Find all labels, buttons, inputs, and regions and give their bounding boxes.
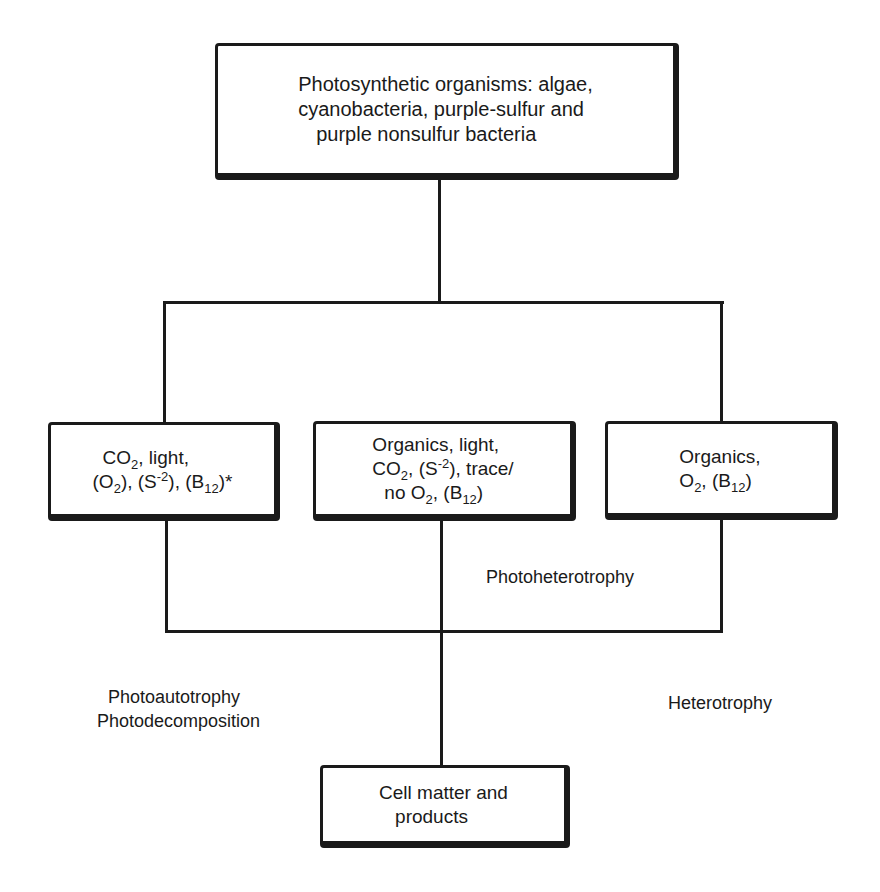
connector-left-down [163, 301, 166, 425]
photosynthetic-organisms-box: Photosynthetic organisms: algae, cyanoba… [215, 43, 679, 180]
photoheterotrophy-inputs-box: Organics, light, CO2, (S-2), trace/ no O… [313, 421, 576, 521]
middle-line-3: no O2, (B12) [372, 481, 513, 505]
output-line-2: products [379, 805, 508, 829]
middle-line-2: CO2, (S-2), trace/ [372, 457, 513, 481]
right-line-2: O2, (B12) [679, 469, 760, 493]
connector-top-horizontal [163, 301, 724, 304]
right-line-1: Organics, [679, 445, 760, 469]
photoheterotrophy-label: Photoheterotrophy [486, 566, 634, 589]
photodecomposition-label: Photodecomposition [97, 710, 260, 733]
connector-middle-vertical [440, 518, 443, 768]
middle-line-1: Organics, light, [372, 433, 513, 457]
photoautotrophy-label: Photoautotrophy [108, 686, 240, 709]
connector-right-down [720, 301, 723, 425]
left-line-1: CO2, light, [93, 446, 233, 470]
heterotrophy-label: Heterotrophy [668, 692, 772, 715]
photoautotrophy-inputs-box: CO2, light, (O2), (S-2), (B12)* [48, 422, 280, 521]
heterotrophy-inputs-box: Organics, O2, (B12) [605, 421, 838, 520]
title-line-1: Photosynthetic organisms: algae, [298, 72, 593, 97]
connector-bottom-horizontal [165, 630, 723, 633]
title-line-2: cyanobacteria, purple-sulfur and [298, 97, 593, 122]
cell-matter-products-box: Cell matter and products [320, 765, 570, 848]
title-line-3: purple nonsulfur bacteria [298, 122, 593, 147]
connector-top-vertical [438, 180, 441, 304]
connector-right-up [720, 516, 723, 631]
output-line-1: Cell matter and [379, 781, 508, 805]
left-line-2: (O2), (S-2), (B12)* [93, 470, 233, 494]
connector-left-up [165, 518, 168, 633]
